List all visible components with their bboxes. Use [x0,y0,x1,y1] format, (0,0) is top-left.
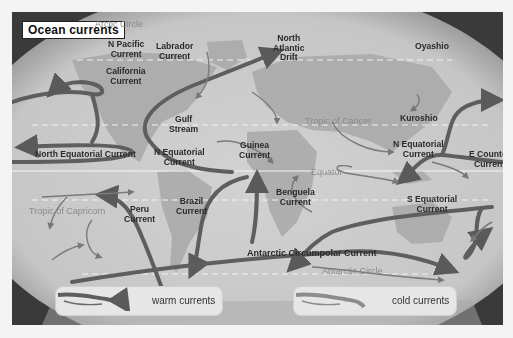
cold-currents-label: cold currents [392,295,449,306]
tropic-of-capricorn-label: Tropic of Capricorn [29,206,105,216]
peru-current-label: PeruCurrent [124,205,155,224]
arctic-circle-label: Arctic Circle [95,19,143,29]
warm-currents-label: warm currents [152,295,215,306]
oyashio-current-label: Oyashio [415,42,449,52]
tropic-of-cancer-label: Tropic of Cancer [305,116,371,126]
guinea-current-label: GuineaCurrent [239,141,270,160]
benguela-current-label: BenguelaCurrent [276,188,315,207]
kuroshio-current-label: Kuroshio [400,114,438,124]
ocean-currents-map: Ocean currents Arctic Circle Tropic of C… [12,12,503,325]
antarctic-circumpolar-current-label: Antarctic Circumpolar Current [247,249,377,259]
n-equatorial-pacific-current-label: N EquatorialCurrent [393,140,444,159]
legend-cold-currents: cold currents [294,287,456,315]
legend-warm-currents: warm currents [56,287,222,315]
map-graphic [12,12,503,325]
s-equatorial-current-label: S EquatorialCurrent [407,195,457,214]
e-counter-current-label: E CounterCurrent [469,150,503,169]
labrador-current-label: LabradorCurrent [156,42,193,61]
n-pacific-current-label: N PacificCurrent [108,40,144,59]
california-current-label: CaliforniaCurrent [106,67,146,86]
warm-current-arrow-icon [56,287,136,311]
north-atlantic-drift-label: NorthAtlanticDrift [273,34,305,63]
brazil-current-label: BrazilCurrent [176,197,207,216]
gulf-stream-label: GulfStream [169,115,198,134]
north-equatorial-current-label: North Equatorial Current [35,150,136,160]
equator-label: Equator [311,167,343,177]
cold-current-arrow-icon [294,287,374,311]
antarctic-circle-label: Antarctic Circle [322,266,383,276]
n-equatorial-atlantic-current-label: N EquatorialCurrent [154,148,205,167]
